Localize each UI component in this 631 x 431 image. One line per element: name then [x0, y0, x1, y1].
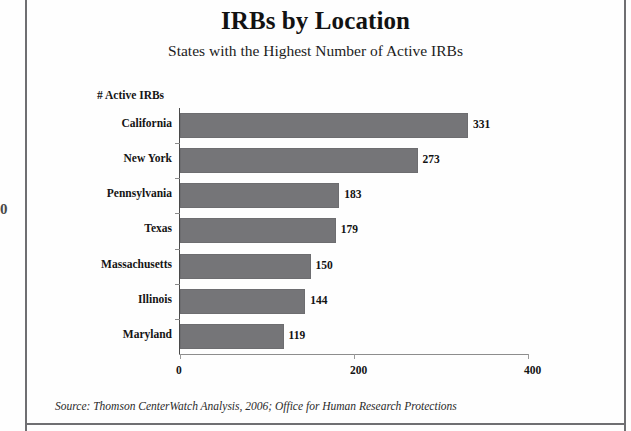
bar-value-label: 331 [473, 118, 490, 130]
category-label: Maryland [2, 328, 172, 340]
bar-value-label: 179 [341, 223, 358, 235]
bar-row: Massachusetts150 [180, 249, 528, 284]
bar-row: Illinois144 [180, 284, 528, 319]
category-label: Massachusetts [2, 258, 172, 270]
chart-title: IRBs by Location [0, 7, 631, 35]
source-note: Source: Thomson CenterWatch Analysis, 20… [55, 400, 457, 412]
x-axis-tick-label: 200 [350, 364, 367, 376]
bar [180, 148, 418, 173]
bar-value-label: 150 [316, 259, 333, 271]
bar [180, 113, 468, 138]
bar-row: California331 [180, 108, 528, 143]
y-axis-tick [175, 213, 180, 214]
bar-value-label: 273 [423, 153, 440, 165]
bar [180, 254, 311, 279]
page-border-right [624, 0, 626, 431]
x-axis-tick [528, 354, 529, 359]
x-axis-tick [180, 354, 181, 359]
y-axis-tick [175, 319, 180, 320]
bar-row: New York273 [180, 143, 528, 178]
chart-subtitle: States with the Highest Number of Active… [0, 42, 631, 60]
page-border-left [25, 0, 27, 431]
bar [180, 324, 284, 349]
bar-row: Maryland119 [180, 319, 528, 354]
y-axis-tick [175, 249, 180, 250]
bar-row: Pennsylvania183 [180, 178, 528, 213]
page-edge-marginal-mark: 0 [0, 200, 8, 218]
bar [180, 183, 339, 208]
bar-chart-plot-area: California331New York273Pennsylvania183T… [180, 108, 528, 354]
y-axis-tick [175, 284, 180, 285]
category-label: Pennsylvania [2, 187, 172, 199]
value-axis-caption: # Active IRBs [97, 89, 164, 101]
category-label: New York [2, 152, 172, 164]
bar-value-label: 144 [310, 294, 327, 306]
bar-value-label: 183 [344, 188, 361, 200]
category-label: Texas [2, 222, 172, 234]
bar-row: Texas179 [180, 213, 528, 248]
page-border-bottom [25, 423, 626, 425]
category-label: California [2, 117, 172, 129]
scanned-page: 0 IRBs by Location States with the Highe… [0, 0, 631, 431]
bar [180, 218, 336, 243]
bar [180, 289, 305, 314]
y-axis-tick [175, 178, 180, 179]
x-axis-tick [354, 354, 355, 359]
category-label: Illinois [2, 293, 172, 305]
x-axis-tick-label: 0 [176, 364, 182, 376]
x-axis-tick-label: 400 [524, 364, 541, 376]
y-axis-tick [175, 143, 180, 144]
bar-value-label: 119 [289, 329, 306, 341]
